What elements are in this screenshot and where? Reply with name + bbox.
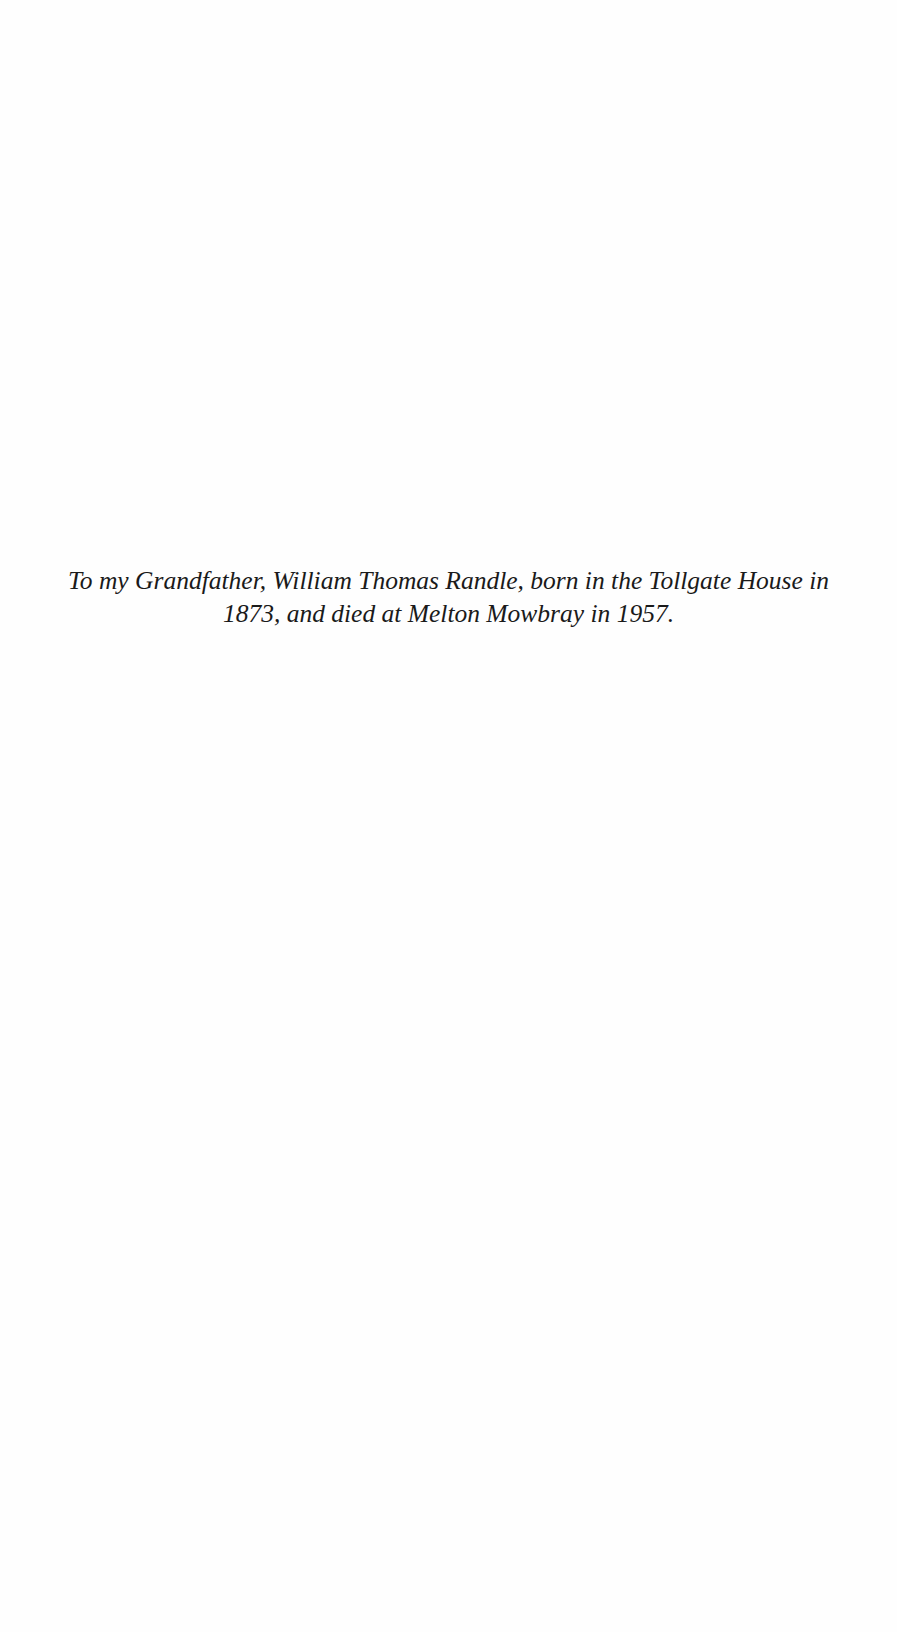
dedication-text: To my Grandfather, William Thomas Randle…	[40, 564, 857, 630]
dedication-line-1: To my Grandfather, William Thomas Randle…	[68, 566, 829, 595]
dedication-page: To my Grandfather, William Thomas Randle…	[0, 0, 897, 1632]
dedication-line-2: 1873, and died at Melton Mowbray in 1957…	[223, 599, 674, 628]
